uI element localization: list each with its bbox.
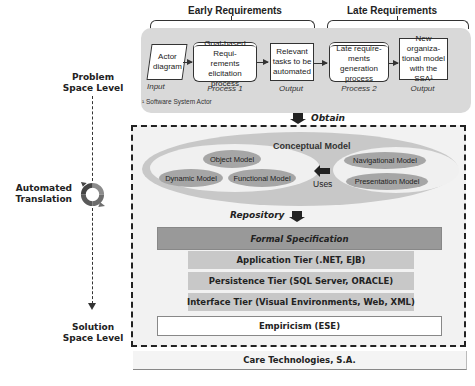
output-1-box: Relevanttasks to beautomated [270, 43, 314, 81]
o2-line-2: tional model [402, 54, 445, 63]
repository-label: Repository [230, 210, 284, 220]
circular-arrows-icon [79, 181, 106, 208]
o1-line-2: tasks to be [273, 57, 312, 66]
axis-dashed-line-top [92, 96, 93, 181]
o1-line-1: Relevant [276, 47, 308, 56]
flow-arrow-1 [183, 62, 192, 63]
problem-line-1: Problem [48, 72, 138, 83]
p2-line-2: ments generation [340, 54, 378, 73]
early-requirements-label: Early Requirements [188, 5, 282, 16]
axis-arrow-down-icon [88, 303, 96, 310]
footnote: ¹ Software System Actor [142, 98, 212, 105]
o2-line-1: New organiza- [407, 34, 440, 53]
caption-input: Input [147, 82, 177, 91]
conceptual-model-title: Conceptual Model [273, 141, 351, 151]
process-2-box: Late require-ments generationprocess [329, 42, 389, 82]
late-requirements-label: Late Requirements [347, 5, 437, 16]
solution-line-2: Space Level [48, 333, 138, 344]
early-brace-tip [231, 16, 232, 20]
process-1-box: Goal-based Requi-rements elicitationproc… [193, 42, 257, 82]
solution-line-1: Solution [48, 322, 138, 333]
p1-line-1: Goal-based Requi- [204, 39, 245, 58]
o2-line-3: with the SSA¹ [410, 64, 438, 83]
caption-output-1: Output [270, 84, 312, 93]
caption-process-1: Process 1 [195, 84, 255, 93]
care-technologies-footer: Care Technologies, S.A. [133, 351, 467, 370]
actor-diagram-input: Actordiagram [146, 44, 187, 80]
automated-translation-label: Automated Translation [8, 183, 72, 205]
uses-arrow-icon [320, 168, 330, 174]
object-model: Object Model [203, 150, 261, 168]
flow-arrow-3 [313, 63, 327, 64]
persistence-tier-band: Persistence Tier (SQL Server, ORACLE) [188, 272, 414, 290]
dynamic-model: Dynamic Model [159, 169, 223, 187]
flow-arrow-4 [388, 63, 398, 64]
interface-tier-band: Interface Tier (Visual Environments, Web… [188, 293, 414, 311]
uses-label: Uses [313, 179, 332, 189]
obtain-label: Obtain [311, 113, 345, 123]
p2-line-3: process [345, 74, 373, 83]
flow-arrow-2 [256, 62, 268, 63]
problem-space-level-label: Problem Space Level [48, 72, 138, 94]
o1-line-3: automated [273, 67, 311, 76]
functional-model: Functional Model [228, 169, 296, 187]
repository-arrow-icon [292, 211, 302, 217]
output-2-box: New organiza-tional modelwith the SSA¹ [399, 38, 448, 80]
formal-specification-band: Formal Specification [157, 227, 442, 250]
p1-line-2: rements elicitation [208, 59, 241, 78]
caption-process-2: Process 2 [330, 84, 388, 93]
p2-line-1: Late require- [336, 44, 381, 53]
obtain-arrow-icon [293, 113, 303, 119]
late-brace-tip [397, 16, 398, 20]
actor-line-2: diagram [153, 62, 182, 71]
caption-output-2: Output [399, 84, 446, 93]
axis-dashed-line-bottom [92, 208, 93, 304]
empiricism-band: Empiricism (ESE) [157, 316, 442, 336]
actor-line-1: Actor [158, 52, 177, 61]
translation-line-1: Automated [8, 183, 72, 194]
translation-line-2: Translation [8, 194, 72, 205]
application-tier-band: Application Tier (.NET, EJB) [188, 251, 414, 269]
presentation-model: Presentation Model [346, 173, 428, 190]
solution-space-level-label: Solution Space Level [48, 322, 138, 344]
problem-line-2: Space Level [48, 83, 138, 94]
navigational-model: Navigational Model [344, 152, 426, 169]
